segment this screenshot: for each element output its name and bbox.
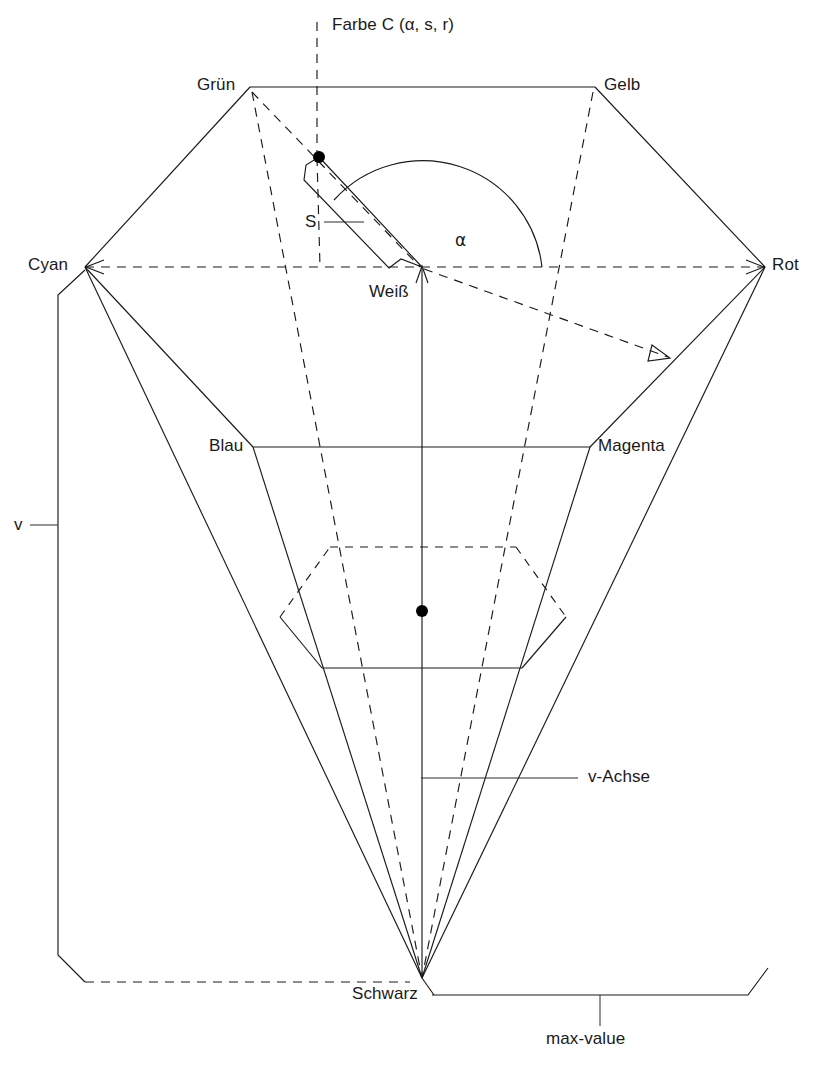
dashed-edge-gruen-weiss	[252, 92, 420, 267]
label-blau: Blau	[209, 437, 243, 454]
hexagon-edge-rot-magenta	[590, 267, 765, 447]
alpha-angle-arc	[334, 161, 542, 267]
colour-point-c-dot	[313, 151, 325, 163]
inner-hexagon-back-right	[516, 547, 566, 617]
dashed-edge-gelb-schwarz	[422, 92, 593, 978]
hexagon-edge-blau-cyan	[85, 267, 253, 447]
label-weiss: Weiß	[369, 283, 409, 300]
label-magenta: Magenta	[598, 437, 665, 454]
label-schwarz: Schwarz	[352, 985, 418, 1002]
cone-edge-rot-schwarz	[422, 267, 765, 978]
hsv-cone-drawing	[0, 0, 815, 1068]
label-s-vector: S	[305, 213, 316, 230]
label-cyan: Cyan	[28, 256, 68, 273]
cone-edge-cyan-schwarz	[85, 267, 422, 978]
hexagon-edge-gelb-rot	[595, 87, 765, 267]
label-alpha-angle: α	[455, 232, 466, 249]
hsv-cone-diagram: Farbe C (α, s, r) Grün Gelb Cyan Rot Wei…	[0, 0, 815, 1068]
inner-hexagon-center-dot	[416, 605, 428, 617]
dashed-radius-arrow-line	[424, 269, 668, 357]
max-value-bracket	[432, 968, 768, 995]
label-v-achse: v-Achse	[588, 768, 650, 785]
v-measure-bracket	[58, 270, 85, 982]
dashed-radius-arrowhead	[648, 345, 670, 361]
cone-edge-blau-schwarz	[253, 447, 422, 978]
inner-hexagon-back-left	[280, 547, 330, 617]
dashed-edge-gruen-schwarz	[252, 92, 422, 978]
farbe-c-vertical-dashed-line-lower	[317, 157, 320, 267]
label-gruen: Grün	[197, 76, 235, 93]
hexagon-edge-cyan-gruen	[85, 87, 250, 267]
label-v: v	[14, 516, 23, 533]
max-value-bracket-start	[422, 978, 434, 995]
label-gelb: Gelb	[604, 76, 640, 93]
cone-edge-magenta-schwarz	[422, 447, 590, 978]
s-vector-body	[304, 157, 422, 268]
label-rot: Rot	[772, 256, 799, 273]
label-max-value: max-value	[546, 1030, 625, 1047]
label-farbe-c: Farbe C (α, s, r)	[332, 16, 454, 33]
